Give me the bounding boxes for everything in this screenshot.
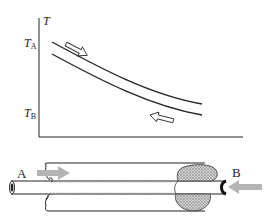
y-axis-label: T [43, 14, 51, 28]
right-tube-end [222, 181, 227, 194]
arrow-left-up-icon [149, 110, 175, 126]
cutaway-insulation [175, 165, 217, 211]
cutaway-edge [175, 181, 178, 194]
tick-label-ta: TA [24, 36, 37, 51]
tick-label-tb: TB [24, 106, 36, 121]
hot-stream-curve [52, 42, 202, 104]
temperature-graph: T TA TB [24, 14, 243, 137]
left-tube-end-dark [11, 184, 14, 192]
heat-exchanger-diagram: T TA TB [0, 0, 269, 219]
flow-arrow-a-icon [37, 166, 70, 180]
cold-stream-curve [52, 54, 202, 115]
outer-shell [45, 163, 205, 165]
flow-arrow-b-icon [228, 180, 262, 194]
label-b: B [232, 165, 241, 180]
exchanger: A B [10, 163, 263, 211]
label-a: A [17, 166, 27, 181]
